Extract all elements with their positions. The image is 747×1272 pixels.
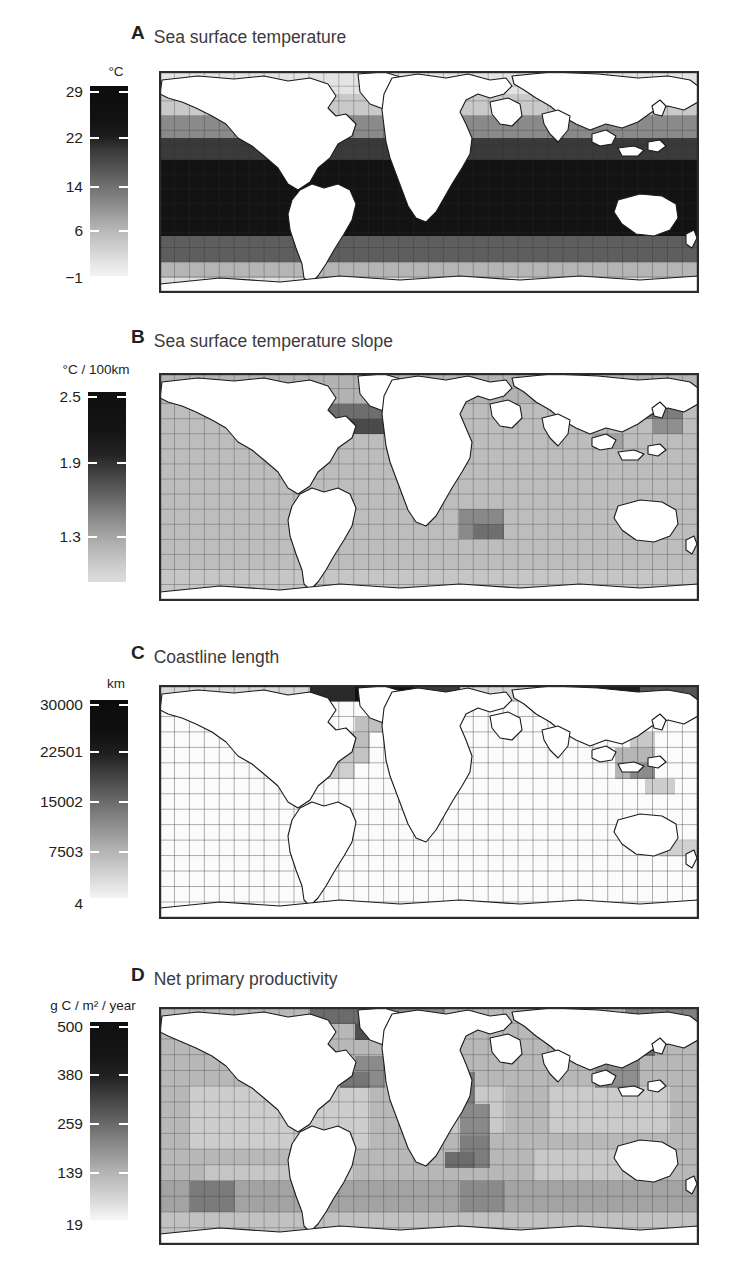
colorbar-tick: 380: [57, 1067, 83, 1083]
tickmark: [119, 1074, 128, 1076]
panel-a-letter: A: [131, 23, 145, 42]
panel-d-colorbar: g C / m² / year 500 380 259 139 19: [14, 998, 144, 1248]
tickmark: [90, 186, 99, 188]
tickmark: [88, 462, 97, 464]
panel-c: C Coastline length km 30000 22501 15002 …: [0, 624, 747, 960]
panel-d: D Net primary productivity g C / m² / ye…: [0, 960, 747, 1272]
colorbar-tick: 22501: [40, 744, 83, 760]
panel-c-colorbar-ramp: [90, 700, 128, 898]
panel-d-map: [160, 1008, 698, 1244]
tickmark: [119, 704, 128, 706]
panel-b-letter: B: [131, 327, 145, 346]
tickmark: [119, 1123, 128, 1125]
panel-b: B Sea surface temperature slope °C / 100…: [0, 312, 747, 624]
tickmark: [90, 801, 99, 803]
colorbar-tick: 14: [66, 179, 83, 195]
panel-a-title: Sea surface temperature: [154, 28, 347, 47]
tickmark: [119, 751, 128, 753]
panel-b-colorbar-unit: °C / 100km: [48, 362, 144, 377]
colorbar-tick: 30000: [40, 697, 83, 713]
tickmark: [90, 1074, 99, 1076]
tickmark: [88, 396, 97, 398]
panel-c-colorbar: km 30000 22501 15002 7503 4: [14, 676, 144, 926]
panel-b-title: Sea surface temperature slope: [154, 332, 393, 351]
panel-a: A Sea surface temperature °C 29 22 14 6 …: [0, 0, 747, 312]
colorbar-tick: 7503: [49, 844, 83, 860]
tickmark: [119, 851, 128, 853]
panel-d-letter: D: [131, 965, 145, 984]
tickmark: [119, 1026, 128, 1028]
panel-d-colorbar-ticks: 500 380 259 139 19: [14, 1022, 83, 1220]
tickmark: [90, 851, 99, 853]
tickmark: [90, 91, 99, 93]
panel-b-colorbar-ticks: 2.5 1.9 1.3: [24, 392, 81, 582]
tickmark: [119, 186, 128, 188]
colorbar-tick: 4: [74, 896, 83, 912]
panel-b-colorbar: °C / 100km 2.5 1.9 1.3: [24, 362, 144, 602]
tickmark: [119, 137, 128, 139]
tickmark: [119, 1172, 128, 1174]
panel-b-map: [160, 374, 698, 600]
tickmark: [117, 462, 126, 464]
colorbar-tick: 15002: [40, 794, 83, 810]
panel-c-colorbar-ticks: 30000 22501 15002 7503 4: [14, 700, 83, 898]
panel-d-colorbar-ramp: [90, 1022, 128, 1220]
panel-a-colorbar-ticks: 29 22 14 6 −1: [28, 86, 83, 276]
colorbar-tick: 22: [66, 130, 83, 146]
tickmark: [90, 1172, 99, 1174]
panel-c-title: Coastline length: [154, 648, 280, 667]
colorbar-tick: 2.5: [59, 389, 81, 405]
panel-a-map: [160, 72, 698, 292]
tickmark: [117, 536, 126, 538]
panel-a-colorbar-unit: °C: [88, 64, 144, 79]
panel-b-colorbar-ramp: [88, 392, 126, 582]
panel-c-heading: C Coastline length: [131, 648, 279, 667]
colorbar-tick: 6: [74, 223, 83, 239]
panel-a-colorbar: °C 29 22 14 6 −1: [28, 64, 143, 294]
colorbar-tick: 1.3: [59, 529, 81, 545]
panel-d-title: Net primary productivity: [154, 970, 338, 989]
colorbar-tick: 259: [57, 1116, 83, 1132]
panel-c-letter: C: [131, 643, 145, 662]
tickmark: [90, 704, 99, 706]
tickmark: [90, 137, 99, 139]
tickmark: [88, 536, 97, 538]
panel-a-heading: A Sea surface temperature: [131, 28, 346, 47]
panel-c-map: [160, 686, 698, 918]
colorbar-tick: 1.9: [59, 455, 81, 471]
tickmark: [119, 801, 128, 803]
tickmark: [90, 1123, 99, 1125]
tickmark: [90, 230, 99, 232]
tickmark: [90, 751, 99, 753]
panel-b-heading: B Sea surface temperature slope: [131, 332, 393, 351]
panel-d-colorbar-unit: g C / m² / year: [28, 998, 158, 1013]
colorbar-tick: 29: [66, 84, 83, 100]
colorbar-tick: 19: [66, 1217, 83, 1233]
tickmark: [119, 230, 128, 232]
tickmark: [90, 1026, 99, 1028]
colorbar-tick: −1: [65, 270, 83, 286]
tickmark: [117, 396, 126, 398]
panel-d-heading: D Net primary productivity: [131, 970, 338, 989]
panel-a-colorbar-ramp: [90, 86, 128, 276]
tickmark: [119, 91, 128, 93]
colorbar-tick: 139: [57, 1165, 83, 1181]
panel-c-colorbar-unit: km: [88, 676, 144, 691]
colorbar-tick: 500: [57, 1019, 83, 1035]
